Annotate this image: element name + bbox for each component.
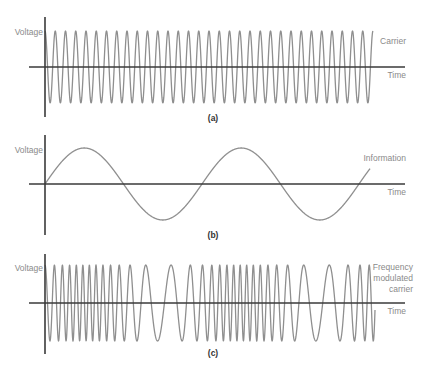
carrier-time-label: Time (387, 70, 406, 80)
information-time-label: Time (387, 187, 406, 197)
carrier-voltage-label: Voltage (15, 27, 44, 37)
fm-time-label: Time (387, 306, 406, 316)
panel-fm-carrier: Voltage Frequency modulated carrier Time… (15, 254, 414, 358)
fm-diagram: Voltage Carrier Time (a) Voltage Informa… (0, 0, 424, 372)
carrier-signal-label: Carrier (380, 36, 406, 46)
caption-b: (b) (208, 230, 219, 240)
fm-signal-label-line2: modulated (373, 273, 413, 283)
fm-signal-label-line3: carrier (389, 284, 413, 294)
caption-a: (a) (208, 113, 219, 123)
caption-c: (c) (208, 348, 219, 358)
information-voltage-label: Voltage (15, 145, 44, 155)
fm-signal-label-line1: Frequency (373, 262, 414, 272)
information-signal-label: Information (363, 153, 406, 163)
panel-carrier: Voltage Carrier Time (a) (15, 17, 407, 123)
panel-information: Voltage Information Time (b) (15, 135, 407, 240)
fm-voltage-label: Voltage (15, 263, 44, 273)
